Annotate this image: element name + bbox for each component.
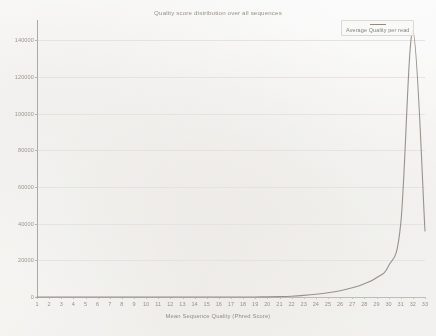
x-axis-tick-mark xyxy=(316,297,317,299)
x-axis-tick-label: 20 xyxy=(264,301,270,307)
y-axis-tick-mark xyxy=(35,114,38,115)
y-axis-tick-label: 20000 xyxy=(18,257,34,263)
x-axis-tick-mark xyxy=(146,297,147,299)
x-axis-tick-label: 16 xyxy=(216,301,222,307)
y-axis-tick-label: 60000 xyxy=(18,184,34,190)
y-axis-tick-mark xyxy=(35,40,38,41)
chart-screenshot: Quality score distribution over all sequ… xyxy=(0,0,436,336)
x-axis-tick-label: 31 xyxy=(398,301,404,307)
x-axis-tick-mark xyxy=(280,297,281,299)
legend-line-swatch xyxy=(370,24,386,25)
x-axis-tick-label: 8 xyxy=(120,301,123,307)
x-axis-tick-mark xyxy=(170,297,171,299)
page-title: Quality score distribution over all sequ… xyxy=(0,9,436,16)
x-axis-tick-label: 32 xyxy=(410,301,416,307)
x-axis-tick-mark xyxy=(49,297,50,299)
y-axis-tick-label: 0 xyxy=(31,294,34,300)
x-axis-tick-label: 4 xyxy=(72,301,75,307)
y-axis-tick-label: 100000 xyxy=(15,111,34,117)
x-axis-tick-mark xyxy=(340,297,341,299)
legend: Average Quality per read xyxy=(341,20,414,36)
x-axis-tick-mark xyxy=(183,297,184,299)
x-axis-tick-mark xyxy=(304,297,305,299)
x-axis-tick-label: 15 xyxy=(204,301,210,307)
x-axis-tick-mark xyxy=(134,297,135,299)
x-axis-tick-label: 25 xyxy=(325,301,331,307)
x-axis-tick-mark xyxy=(377,297,378,299)
x-axis-tick-label: 1 xyxy=(35,301,38,307)
gridline xyxy=(37,77,425,78)
x-axis-tick-label: 30 xyxy=(385,301,391,307)
x-axis-tick-label: 33 xyxy=(422,301,428,307)
x-axis-tick-label: 28 xyxy=(361,301,367,307)
y-axis-tick-label: 140000 xyxy=(15,37,34,43)
x-axis-tick-mark xyxy=(110,297,111,299)
y-axis-tick-mark xyxy=(35,150,38,151)
x-axis-title: Mean Sequence Quality (Phred Score) xyxy=(0,313,436,319)
x-axis-tick-label: 6 xyxy=(96,301,99,307)
x-axis-tick-label: 18 xyxy=(240,301,246,307)
x-axis-tick-label: 12 xyxy=(167,301,173,307)
gridline xyxy=(37,40,425,41)
gridline xyxy=(37,260,425,261)
y-axis-tick-mark xyxy=(35,187,38,188)
gridline xyxy=(37,224,425,225)
plot-area xyxy=(37,22,425,297)
x-axis-tick-label: 5 xyxy=(84,301,87,307)
y-axis-tick-mark xyxy=(35,224,38,225)
x-axis-tick-mark xyxy=(231,297,232,299)
x-axis-tick-mark xyxy=(255,297,256,299)
x-axis-tick-label: 10 xyxy=(143,301,149,307)
x-axis-tick-mark xyxy=(425,297,426,299)
x-axis-tick-label: 13 xyxy=(179,301,185,307)
x-axis-tick-mark xyxy=(328,297,329,299)
y-axis-line xyxy=(37,20,38,299)
y-axis-tick-labels: 020000400006000080000100000120000140000 xyxy=(0,22,34,297)
x-axis-tick-label: 24 xyxy=(313,301,319,307)
x-axis-tick-label: 19 xyxy=(252,301,258,307)
gridline xyxy=(37,150,425,151)
x-axis-tick-label: 11 xyxy=(155,301,161,307)
x-axis-tick-label: 2 xyxy=(48,301,51,307)
y-axis-tick-label: 40000 xyxy=(18,221,34,227)
x-axis-tick-mark xyxy=(207,297,208,299)
x-axis-tick-mark xyxy=(98,297,99,299)
x-axis-tick-mark xyxy=(292,297,293,299)
x-axis-tick-mark xyxy=(389,297,390,299)
gridline xyxy=(37,187,425,188)
x-axis-tick-mark xyxy=(219,297,220,299)
x-axis-tick-mark xyxy=(243,297,244,299)
x-axis-tick-mark xyxy=(401,297,402,299)
x-axis-tick-label: 27 xyxy=(349,301,355,307)
x-axis-tick-label: 23 xyxy=(301,301,307,307)
x-axis-tick-mark xyxy=(413,297,414,299)
x-axis-tick-mark xyxy=(86,297,87,299)
legend-label: Average Quality per read xyxy=(346,27,409,33)
x-axis-tick-mark xyxy=(61,297,62,299)
y-axis-tick-label: 120000 xyxy=(15,74,34,80)
x-axis-tick-mark xyxy=(195,297,196,299)
x-axis-tick-label: 7 xyxy=(108,301,111,307)
x-axis-tick-mark xyxy=(267,297,268,299)
x-axis-tick-label: 29 xyxy=(373,301,379,307)
x-axis-tick-label: 21 xyxy=(276,301,282,307)
x-axis-tick-mark xyxy=(352,297,353,299)
x-axis-tick-mark xyxy=(122,297,123,299)
x-axis-tick-mark xyxy=(37,297,38,299)
x-axis-tick-mark xyxy=(364,297,365,299)
x-axis-tick-label: 26 xyxy=(337,301,343,307)
x-axis-tick-mark xyxy=(158,297,159,299)
y-axis-tick-label: 80000 xyxy=(18,147,34,153)
y-axis-tick-mark xyxy=(35,260,38,261)
y-axis-tick-mark xyxy=(35,77,38,78)
x-axis-tick-label: 9 xyxy=(132,301,135,307)
x-axis-tick-label: 17 xyxy=(228,301,234,307)
x-axis-tick-label: 3 xyxy=(60,301,63,307)
x-axis-tick-label: 22 xyxy=(288,301,294,307)
x-axis-tick-label: 14 xyxy=(191,301,197,307)
gridline xyxy=(37,114,425,115)
x-axis-tick-mark xyxy=(73,297,74,299)
x-axis-tick-labels: 1234567891011121314151617181920212223242… xyxy=(0,301,436,311)
